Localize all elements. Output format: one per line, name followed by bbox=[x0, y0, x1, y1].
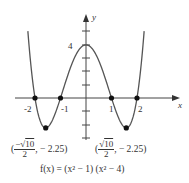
x-tick-label-2: 2 bbox=[138, 104, 143, 114]
marked-point bbox=[43, 125, 48, 130]
marked-point bbox=[109, 95, 114, 100]
left-minimum-annotation: (−√102, − 2.25) bbox=[11, 140, 67, 159]
function-formula: f(x) = (x² − 1) (x² − 4) bbox=[40, 164, 124, 174]
x-axis-label: x bbox=[177, 100, 182, 110]
x-tick-label-1: 1 bbox=[109, 104, 114, 114]
y-axis-label: y bbox=[91, 12, 96, 22]
right-minimum-annotation: (√102, − 2.25) bbox=[95, 140, 146, 159]
fraction: √102 bbox=[98, 140, 114, 159]
x-tick-label-neg2: -2 bbox=[24, 104, 32, 114]
marked-point bbox=[32, 95, 37, 100]
y-axis-arrow-icon bbox=[83, 14, 89, 22]
function-graph-figure: y x 4 -2 -1 1 2 (−√102, − 2.25) (√102, −… bbox=[0, 0, 189, 183]
x-tick-label-neg1: -1 bbox=[61, 104, 69, 114]
y-tick-label-4: 4 bbox=[68, 41, 73, 51]
fraction: −√102 bbox=[14, 140, 35, 159]
marked-point bbox=[134, 95, 139, 100]
marked-point bbox=[58, 95, 63, 100]
marked-point bbox=[124, 125, 129, 130]
